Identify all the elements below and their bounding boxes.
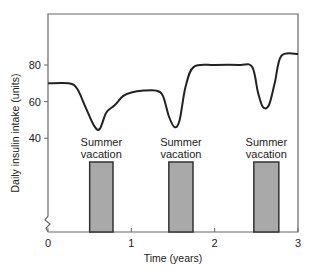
y-axis-ticks: 406080 bbox=[29, 59, 48, 144]
vacation-label: Summer bbox=[81, 136, 123, 148]
y-axis-title: Daily insulin intake (units) bbox=[9, 73, 21, 192]
y-tick-label: 40 bbox=[29, 132, 41, 144]
summer-vacation-bars: SummervacationSummervacationSummervacati… bbox=[81, 136, 288, 232]
x-tick-label: 0 bbox=[45, 237, 51, 249]
x-tick-label: 2 bbox=[212, 237, 218, 249]
x-tick-label: 1 bbox=[128, 237, 134, 249]
y-tick-label: 60 bbox=[29, 96, 41, 108]
y-tick-label: 80 bbox=[29, 59, 41, 71]
x-axis-title: Time (years) bbox=[144, 252, 203, 264]
vacation-label: Summer bbox=[160, 136, 202, 148]
vacation-label: Summer bbox=[246, 136, 288, 148]
insulin-curve bbox=[48, 53, 298, 130]
x-tick-label: 3 bbox=[295, 237, 301, 249]
vacation-bar bbox=[169, 162, 193, 232]
vacation-label: vacation bbox=[246, 148, 287, 160]
insulin-line bbox=[48, 53, 298, 130]
vacation-bar bbox=[254, 162, 279, 232]
vacation-bar bbox=[90, 162, 113, 232]
vacation-label: vacation bbox=[81, 148, 122, 160]
vacation-label: vacation bbox=[160, 148, 201, 160]
insulin-chart: SummervacationSummervacationSummervacati… bbox=[0, 0, 315, 275]
